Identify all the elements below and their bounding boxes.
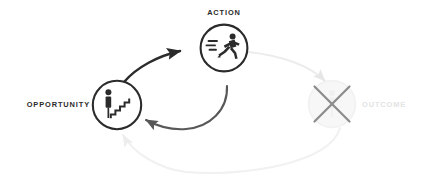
node-opportunity[interactable] [93,81,141,129]
node-label-opportunity: OPPORTUNITY [14,101,90,108]
node-outcome[interactable] [309,81,356,128]
node-label-outcome: OUTCOME [362,101,430,108]
edge-outcome-to-opportunity [123,128,340,173]
diagram-canvas: OPPORTUNITY ACTION OUTCOME [0,0,430,181]
edge-action-back-to-opportunity [146,86,227,129]
node-label-action: ACTION [186,9,262,16]
edge-action-to-outcome [249,52,325,81]
edge-opportunity-to-action [124,51,180,82]
node-action[interactable] [201,25,248,72]
diagram-svg [0,0,430,181]
